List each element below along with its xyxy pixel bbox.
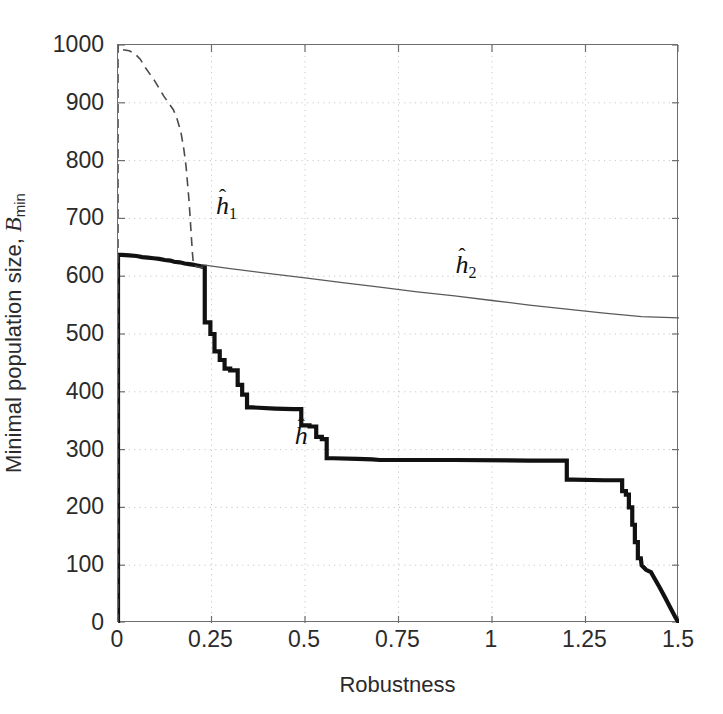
x-tick-label: 0.25 <box>188 628 233 651</box>
h2-label: ̂h2 <box>455 252 476 281</box>
x-tick-label: 0 <box>111 628 124 651</box>
annotation-symbol: h <box>455 250 468 279</box>
figure-root: 01002003004005006007008009001000 Minimal… <box>0 0 723 714</box>
y-tick-label: 200 <box>66 495 104 518</box>
x-tick-label: 1.25 <box>562 628 607 651</box>
y-axis-title-symbol: B <box>0 217 26 232</box>
series-h2_hat <box>201 265 679 318</box>
x-axis-tick-labels: 00.250.50.7511.251.5 <box>117 628 678 668</box>
x-tick-label: 0.5 <box>288 628 320 651</box>
y-tick-label: 500 <box>66 322 104 345</box>
y-axis-title-prefix: Minimal population size, <box>1 232 26 473</box>
plot-area <box>117 44 678 622</box>
y-tick-label: 400 <box>66 379 104 402</box>
annotation-subscript: 2 <box>468 264 476 281</box>
annotation-symbol: h <box>295 421 308 450</box>
h-label: ̂h <box>295 423 308 449</box>
y-tick-label: 600 <box>66 264 104 287</box>
h1-label: ̂h1 <box>216 193 237 222</box>
series-h_hat <box>118 255 679 623</box>
series-layer <box>118 45 679 623</box>
x-tick-label: 0.75 <box>375 628 420 651</box>
y-tick-label: 100 <box>66 553 104 576</box>
x-axis-title: Robustness <box>117 672 678 698</box>
series-h1_hat <box>118 45 203 623</box>
y-tick-label: 700 <box>66 206 104 229</box>
x-tick-label: 1 <box>485 628 498 651</box>
x-tick-label: 1.5 <box>662 628 694 651</box>
y-axis-title-subscript: min <box>11 193 28 217</box>
y-tick-label: 0 <box>91 611 104 634</box>
y-tick-label: 1000 <box>53 33 104 56</box>
y-axis-title: Minimal population size, Bmin <box>0 44 34 622</box>
y-tick-label: 800 <box>66 148 104 171</box>
y-tick-label: 900 <box>66 90 104 113</box>
annotation-subscript: 1 <box>229 205 237 222</box>
y-tick-label: 300 <box>66 437 104 460</box>
annotation-symbol: h <box>216 191 229 220</box>
